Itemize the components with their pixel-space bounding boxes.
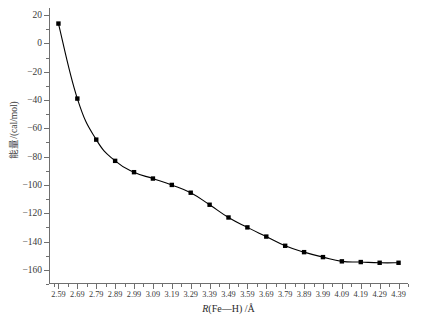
data-point-marker xyxy=(113,159,117,163)
data-point-marker xyxy=(75,96,79,100)
x-tick-label: 2.99 xyxy=(127,290,142,299)
x-tick-label: 3.39 xyxy=(202,290,217,299)
x-tick-label: 3.79 xyxy=(278,290,293,299)
data-point-marker xyxy=(377,261,381,265)
data-point-marker xyxy=(207,203,211,207)
x-tick-minor xyxy=(87,284,88,287)
x-tick-minor xyxy=(143,284,144,287)
x-tick-label: 4.09 xyxy=(335,290,350,299)
x-tick-label: 4.19 xyxy=(353,290,368,299)
data-point-marker xyxy=(170,183,174,187)
x-tick-label: 3.09 xyxy=(146,290,161,299)
x-tick-major xyxy=(266,284,267,289)
x-tick-major xyxy=(285,284,286,289)
x-tick-major xyxy=(210,284,211,289)
data-point-marker xyxy=(321,255,325,259)
x-tick-label: 3.49 xyxy=(221,290,236,299)
x-tick-minor xyxy=(54,284,55,287)
x-tick-minor xyxy=(106,284,107,287)
y-tick-label: −20 xyxy=(27,67,42,77)
x-tick-minor xyxy=(370,284,371,287)
y-tick-minor xyxy=(46,284,49,285)
x-tick-major xyxy=(399,284,400,289)
y-tick-label: −140 xyxy=(22,237,42,247)
data-point-marker xyxy=(359,260,363,264)
data-point-marker xyxy=(226,215,230,219)
data-point-marker xyxy=(396,261,400,265)
data-point-marker xyxy=(56,21,60,25)
x-tick-label: 3.29 xyxy=(183,290,198,299)
x-tick-minor xyxy=(351,284,352,287)
x-tick-minor xyxy=(162,284,163,287)
data-point-marker xyxy=(189,191,193,195)
x-tick-minor xyxy=(257,284,258,287)
x-tick-major xyxy=(153,284,154,289)
x-tick-minor xyxy=(276,284,277,287)
x-tick-label: 2.69 xyxy=(70,290,85,299)
x-tick-minor xyxy=(200,284,201,287)
x-tick-label: 2.89 xyxy=(108,290,123,299)
x-tick-major xyxy=(172,284,173,289)
x-tick-major xyxy=(96,284,97,289)
x-tick-minor xyxy=(219,284,220,287)
data-series xyxy=(49,8,408,284)
x-tick-major xyxy=(191,284,192,289)
x-tick-minor xyxy=(238,284,239,287)
data-point-marker xyxy=(264,234,268,238)
y-tick-label: 20 xyxy=(33,10,43,20)
data-point-marker xyxy=(245,225,249,229)
x-tick-minor xyxy=(408,284,409,287)
x-tick-label: 3.89 xyxy=(297,290,312,299)
series-line xyxy=(58,24,398,263)
y-axis-title: 能量/(cal/mol) xyxy=(6,65,20,195)
x-tick-minor xyxy=(314,284,315,287)
x-tick-major xyxy=(304,284,305,289)
x-tick-major xyxy=(380,284,381,289)
x-tick-label: 4.39 xyxy=(391,290,406,299)
x-tick-label: 2.59 xyxy=(51,290,66,299)
x-tick-minor xyxy=(68,284,69,287)
data-point-marker xyxy=(340,259,344,263)
y-tick-label: −100 xyxy=(22,180,42,190)
y-tick-label: −80 xyxy=(27,152,42,162)
y-tick-label: −60 xyxy=(27,123,42,133)
x-tick-major xyxy=(134,284,135,289)
x-tick-minor xyxy=(181,284,182,287)
x-tick-major xyxy=(58,284,59,289)
x-tick-major xyxy=(229,284,230,289)
x-axis-title: R(Fe—H) /Å xyxy=(49,303,408,314)
data-point-marker xyxy=(151,176,155,180)
x-axis-title-rest: (Fe—H) /Å xyxy=(208,303,254,314)
x-tick-label: 4.29 xyxy=(372,290,387,299)
x-tick-label: 3.59 xyxy=(240,290,255,299)
x-tick-major xyxy=(115,284,116,289)
x-tick-major xyxy=(361,284,362,289)
x-tick-major xyxy=(77,284,78,289)
data-point-marker xyxy=(302,250,306,254)
x-tick-label: 2.79 xyxy=(89,290,104,299)
chart-page: 200−20−40−60−80−100−120−140−160 2.592.69… xyxy=(0,0,423,326)
data-point-marker xyxy=(132,170,136,174)
x-tick-label: 3.99 xyxy=(316,290,331,299)
y-tick-label: 0 xyxy=(37,38,42,48)
y-tick-label: −160 xyxy=(22,265,42,275)
x-tick-minor xyxy=(332,284,333,287)
plot-area: 200−20−40−60−80−100−120−140−160 2.592.69… xyxy=(49,8,408,284)
y-tick-label: −120 xyxy=(22,208,42,218)
data-point-marker xyxy=(283,244,287,248)
x-tick-label: 3.69 xyxy=(259,290,274,299)
x-tick-major xyxy=(323,284,324,289)
y-tick-label: −40 xyxy=(27,95,42,105)
x-tick-minor xyxy=(389,284,390,287)
x-tick-minor xyxy=(295,284,296,287)
x-tick-minor xyxy=(125,284,126,287)
x-tick-major xyxy=(247,284,248,289)
x-tick-major xyxy=(342,284,343,289)
x-tick-label: 3.19 xyxy=(165,290,180,299)
data-point-marker xyxy=(94,137,98,141)
